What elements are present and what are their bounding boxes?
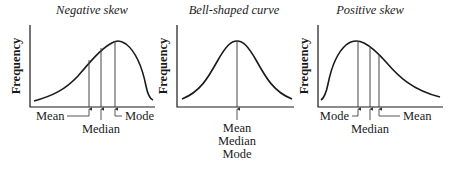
distribution-curve: [34, 41, 153, 101]
y-axis-label: Frequency: [297, 37, 311, 94]
label-mode: Mode: [125, 109, 155, 123]
y-axis-label: Frequency: [156, 37, 170, 94]
panel-negative-skew: Negative skew Frequency Mean Median Mode: [9, 3, 155, 136]
label-median: Median: [351, 122, 390, 136]
y-axis-label: Frequency: [9, 37, 23, 94]
panel-bell-curve: Bell-shaped curve Frequency Mean Median …: [156, 3, 294, 161]
label-mean: Mean: [223, 121, 252, 135]
panel-title: Positive skew: [335, 3, 404, 17]
axes: [318, 25, 443, 107]
label-mode: Mode: [320, 109, 350, 123]
label-mean: Mean: [36, 109, 65, 123]
axes: [177, 25, 294, 107]
label-median: Median: [82, 122, 121, 136]
label-median: Median: [218, 134, 257, 148]
axes: [30, 25, 155, 107]
label-mean: Mean: [403, 109, 432, 123]
panel-title: Bell-shaped curve: [189, 3, 280, 17]
skewness-diagram: Negative skew Frequency Mean Median Mode…: [0, 0, 454, 170]
panel-title: Negative skew: [55, 3, 129, 17]
label-mode: Mode: [222, 147, 252, 161]
panel-positive-skew: Positive skew Frequency Mode Median Mean: [297, 3, 443, 136]
distribution-curve: [321, 41, 440, 100]
